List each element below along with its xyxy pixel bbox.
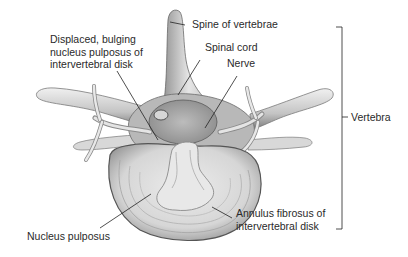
label-nucleus-pulposus: Nucleus pulposus	[27, 230, 110, 243]
label-annulus-line1: Annulus fibrosus of	[236, 207, 325, 220]
label-displaced-nucleus-pulposus: Displaced, bulging nucleus pulposus of i…	[50, 33, 143, 71]
label-spinal-cord: Spinal cord	[205, 41, 258, 54]
label-displaced-line2: nucleus pulposus of	[50, 46, 143, 59]
label-displaced-line3: intervertebral disk	[50, 58, 143, 71]
label-nerve: Nerve	[227, 57, 255, 70]
label-vertebra: Vertebra	[351, 111, 391, 124]
label-annulus-fibrosus: Annulus fibrosus of intervertebral disk	[236, 207, 325, 232]
diagram-canvas: Spine of vertebrae Displaced, bulging nu…	[0, 0, 408, 257]
spinal-cord	[149, 100, 217, 144]
label-displaced-line1: Displaced, bulging	[50, 33, 143, 46]
right-transverse-process	[248, 89, 333, 150]
label-spine-of-vertebrae: Spine of vertebrae	[192, 18, 278, 31]
label-annulus-line2: intervertebral disk	[236, 220, 325, 233]
